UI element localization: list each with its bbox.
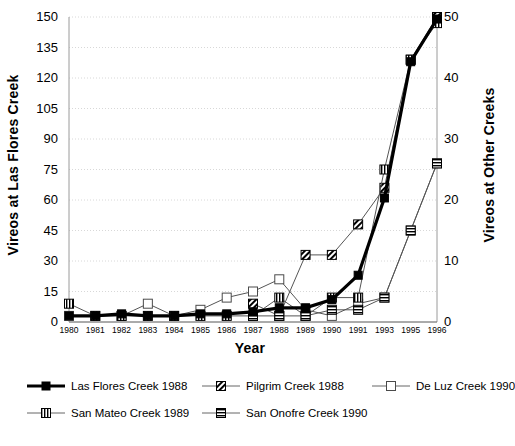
legend-row: San Mateo Creek 1989San Onofre Creek 199…: [26, 399, 496, 426]
legend-item-las-flores-creek-1988[interactable]: Las Flores Creek 1988: [26, 379, 187, 393]
legend-label: Las Flores Creek 1988: [66, 380, 187, 392]
legend-item-pilgrim-creek-1988[interactable]: Pilgrim Creek 1988: [201, 379, 344, 393]
data-series-layer: [65, 13, 442, 321]
legend-marker-filled-square-icon: [26, 379, 66, 393]
legend-marker-vbar-square-icon: [26, 406, 66, 420]
legend-label: San Onofre Creek 1990: [241, 407, 367, 419]
legend-row: Las Flores Creek 1988Pilgrim Creek 1988D…: [26, 372, 496, 399]
chart-legend: Las Flores Creek 1988Pilgrim Creek 1988D…: [26, 372, 496, 426]
legend-marker-open-square-icon: [371, 379, 411, 393]
legend-item-san-mateo-creek-1989[interactable]: San Mateo Creek 1989: [26, 406, 189, 420]
legend-marker-hbar-square-icon: [201, 406, 241, 420]
legend-label: De Luz Creek 1990: [411, 380, 515, 392]
legend-label: Pilgrim Creek 1988: [241, 380, 344, 392]
legend-item-de-luz-creek-1990[interactable]: De Luz Creek 1990: [371, 379, 515, 393]
legend-label: San Mateo Creek 1989: [66, 407, 189, 419]
legend-marker-hatched-square-icon: [201, 379, 241, 393]
legend-item-san-onofre-creek-1990[interactable]: San Onofre Creek 1990: [201, 406, 367, 420]
